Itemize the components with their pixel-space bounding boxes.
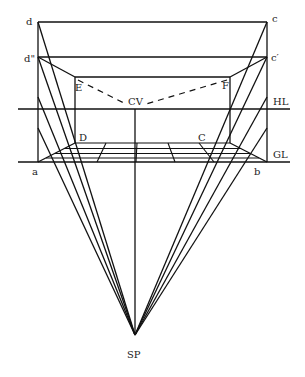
label-C: C <box>198 132 206 143</box>
label-HL: HL <box>273 96 289 107</box>
label-E: E <box>75 82 82 93</box>
sight-line-SP-right4 <box>135 128 267 335</box>
label-SP: SP <box>127 349 141 360</box>
floor-grid-r1 <box>97 143 106 162</box>
label-a: a <box>32 166 38 177</box>
label-GL: GL <box>273 149 288 160</box>
label-b: b <box>254 166 260 177</box>
label-c2: c′ <box>271 52 280 63</box>
label-D: D <box>79 132 87 143</box>
label-CV: CV <box>128 96 144 107</box>
floor-grid-r2 <box>136 143 137 162</box>
perspective-diagram: d d" c c′ E F CV HL D C GL a b SP <box>0 0 305 377</box>
sight-line-SP-left4 <box>38 128 135 335</box>
label-F: F <box>222 80 229 91</box>
sight-line-SP-d <box>38 22 135 335</box>
floor-grid-r3 <box>168 143 175 162</box>
sight-line-SP-d2 <box>38 57 135 335</box>
sight-line-SP-c <box>135 22 267 335</box>
sight-line-SP-c2 <box>135 57 267 335</box>
label-d2: d" <box>24 53 35 64</box>
dashed-E-to-CV <box>78 80 126 104</box>
dashed-F-to-CV <box>146 80 227 104</box>
label-d: d <box>26 16 33 27</box>
label-c: c <box>272 13 278 24</box>
